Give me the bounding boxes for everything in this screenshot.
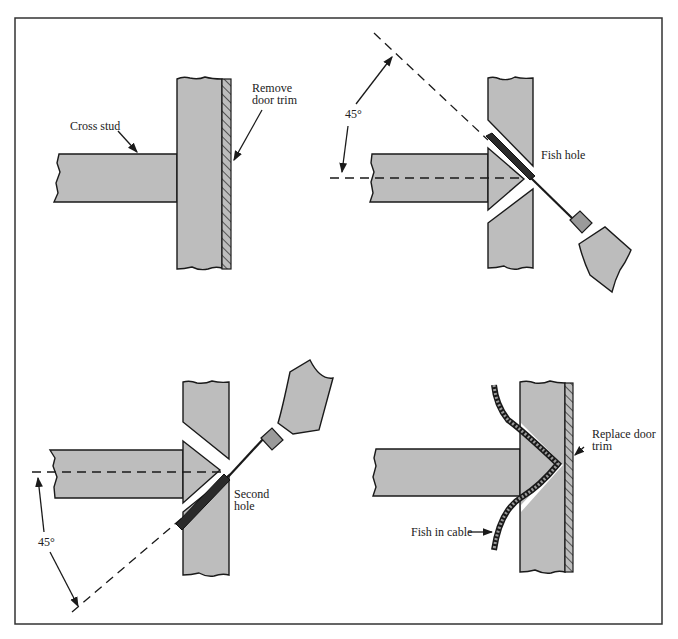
- drill-body: [278, 360, 333, 434]
- angle-arrow-down: [342, 126, 348, 172]
- drill-shank: [531, 178, 573, 219]
- wall-stud: [177, 77, 222, 270]
- panel-remove-trim: Cross stud Remove door trim: [54, 77, 298, 270]
- label-second-hole-2: hole: [234, 499, 255, 513]
- trim-arrow: [234, 110, 262, 160]
- drill-chuck: [570, 211, 592, 233]
- drill-body: [579, 227, 631, 292]
- diagram-canvas: Cross stud Remove door trim 45° Fish hol…: [0, 0, 678, 639]
- cross-stud: [373, 449, 520, 496]
- door-trim: [222, 79, 231, 269]
- label-remove-trim-2: door trim: [252, 93, 298, 107]
- angle-arrow-up: [356, 57, 392, 104]
- panel-second-hole: 45° Second hole: [32, 360, 333, 612]
- angle-arrow-up: [38, 478, 44, 532]
- panel-fish-hole: 45° Fish hole: [330, 33, 631, 292]
- panel-replace-trim: Replace door trim Fish in cable: [373, 381, 656, 573]
- drill-chuck: [261, 428, 283, 450]
- label-cross-stud: Cross stud: [70, 119, 120, 133]
- cross-stud: [54, 154, 177, 202]
- label-fish-hole: Fish hole: [541, 148, 585, 162]
- angle-arrow-down: [50, 552, 78, 606]
- label-angle: 45°: [38, 535, 55, 549]
- label-replace-trim-2: trim: [592, 439, 613, 453]
- door-trim: [565, 383, 573, 572]
- cross-stud: [50, 450, 183, 498]
- label-angle: 45°: [345, 107, 362, 121]
- trim-arrow: [575, 447, 584, 455]
- drill-shank: [228, 437, 265, 477]
- label-fish-in-cable: Fish in cable: [411, 525, 472, 539]
- cross-stud-arrow: [118, 131, 137, 152]
- angled-reference-line: [72, 518, 182, 612]
- angled-reference-line: [374, 33, 488, 140]
